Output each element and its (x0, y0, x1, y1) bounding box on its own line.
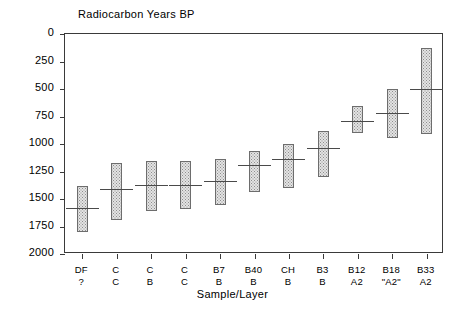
x-axis-tick (151, 254, 152, 259)
median-line (376, 113, 409, 114)
y-axis-tick (60, 34, 65, 35)
y-axis-tick-label: 1750 (8, 219, 54, 231)
range-bar (352, 106, 363, 134)
y-axis-tick-label: 0 (8, 26, 54, 38)
x-axis-tick (220, 254, 221, 259)
y-axis-tick (60, 227, 65, 228)
median-line (410, 89, 443, 90)
median-line (204, 181, 237, 182)
y-axis-tick-label: 250 (8, 54, 54, 66)
y-axis-tick (60, 144, 65, 145)
range-bar (249, 151, 260, 193)
y-axis-title: Radiocarbon Years BP (78, 8, 195, 20)
y-axis-tick-label: 750 (8, 109, 54, 121)
y-axis-tick (60, 117, 65, 118)
y-axis-tick (60, 172, 65, 173)
radiocarbon-range-chart: Radiocarbon Years BP 0250500750100012501… (0, 0, 465, 310)
range-bar (283, 144, 294, 188)
y-axis-tick (60, 199, 65, 200)
y-axis-tick (60, 89, 65, 90)
y-axis-tick-label: 1000 (8, 136, 54, 148)
plot-area (64, 33, 443, 253)
y-axis-tick (60, 62, 65, 63)
y-axis-tick (60, 254, 65, 255)
x-label-sample: B33 (403, 264, 449, 276)
median-line (135, 185, 168, 186)
median-line (169, 185, 202, 186)
median-line (272, 159, 305, 160)
x-axis-title: Sample/Layer (0, 288, 465, 300)
range-bar (215, 159, 226, 205)
median-line (100, 189, 133, 190)
median-line (341, 121, 374, 122)
x-axis-tick (289, 254, 290, 259)
median-line (238, 165, 271, 166)
x-axis-tick (358, 254, 359, 259)
range-bar (318, 131, 329, 177)
median-line (66, 208, 99, 209)
x-axis-tick (186, 254, 187, 259)
x-label-layer: A2 (403, 276, 449, 288)
range-bar (77, 186, 88, 232)
y-axis-tick-label: 500 (8, 81, 54, 93)
x-axis-tick (82, 254, 83, 259)
y-axis-tick-label: 1250 (8, 164, 54, 176)
range-bar (111, 163, 122, 220)
median-line (307, 148, 340, 149)
x-axis-tick (255, 254, 256, 259)
x-axis-tick (392, 254, 393, 259)
y-axis-tick-label: 2000 (8, 246, 54, 258)
x-axis-tick (427, 254, 428, 259)
x-axis-tick (323, 254, 324, 259)
range-bar (421, 48, 432, 134)
x-axis-tick-label: B33A2 (403, 264, 449, 287)
y-axis-tick-label: 1500 (8, 191, 54, 203)
x-axis-tick (117, 254, 118, 259)
